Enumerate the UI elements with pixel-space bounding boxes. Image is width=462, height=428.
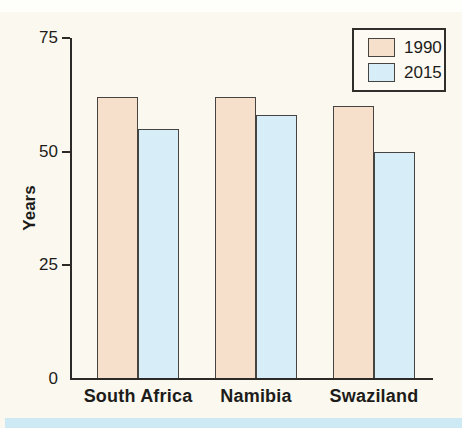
legend: 19902015 xyxy=(352,28,446,92)
y-tick xyxy=(62,37,70,39)
legend-entry-2015: 2015 xyxy=(368,63,444,83)
page-edge-strip xyxy=(5,418,462,428)
bar-1990-swaziland xyxy=(333,106,374,379)
x-category-label-swaziland: Swaziland xyxy=(330,386,419,407)
y-tick-label: 50 xyxy=(24,142,58,162)
bar-1990-namibia xyxy=(215,97,256,379)
y-tick xyxy=(62,151,70,153)
y-tick xyxy=(62,264,70,266)
y-axis-label: Years xyxy=(20,185,40,230)
bar-2015-namibia xyxy=(256,115,297,379)
legend-swatch-1990 xyxy=(368,38,395,57)
y-tick-label: 25 xyxy=(24,255,58,275)
y-tick-label: 75 xyxy=(24,28,58,48)
x-axis xyxy=(70,378,433,380)
x-category-label-namibia: Namibia xyxy=(220,386,291,407)
bar-2015-swaziland xyxy=(374,152,415,380)
legend-swatch-2015 xyxy=(368,63,395,82)
bar-2015-south-africa xyxy=(138,129,179,379)
y-tick-label: 0 xyxy=(24,369,58,389)
legend-label-1990: 1990 xyxy=(404,38,442,58)
x-category-label-south-africa: South Africa xyxy=(84,386,193,407)
legend-label-2015: 2015 xyxy=(404,63,442,83)
legend-entry-1990: 1990 xyxy=(368,38,444,58)
y-axis xyxy=(70,38,72,380)
bar-1990-south-africa xyxy=(97,97,138,379)
life-expectancy-bar-chart-figure: 0255075South AfricaNamibiaSwaziland Year… xyxy=(0,0,462,428)
